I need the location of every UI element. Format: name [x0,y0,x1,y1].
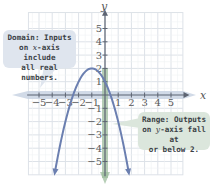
domain-line-1: Domain: Inputs [3,33,76,43]
domain-line-2: on x-axis include [3,43,76,63]
svg-text:−1: −1 [87,103,102,114]
svg-text:5: 5 [168,97,174,108]
svg-text:5: 5 [96,23,102,34]
svg-text:3: 3 [96,50,102,61]
range-line-2-post: -axis fall at [160,125,206,144]
range-callout: Range: Outputs on y-axis fall at or belo… [138,112,210,150]
range-line-3: or below 2. [138,145,210,155]
domain-line-2-pre: on [19,43,33,52]
y-axis-label: y [100,0,108,13]
svg-text:1: 1 [96,76,102,87]
svg-text:4: 4 [155,97,161,108]
range-line-2: on y-axis fall at [138,125,210,145]
range-line-1: Range: Outputs [138,115,210,125]
svg-text:−4: −4 [87,143,102,154]
svg-text:−5: −5 [87,156,102,167]
range-line-2-pre: on [142,125,156,134]
domain-callout: Domain: Inputs on x-axis include all rea… [3,30,76,68]
svg-text:1: 1 [115,97,121,108]
svg-text:3: 3 [141,97,147,108]
range-callout-pointer [112,118,140,128]
domain-line-3: all real numbers. [3,63,76,83]
svg-text:2: 2 [128,97,134,108]
svg-text:−2: −2 [87,116,102,127]
x-axis-label: x [200,89,207,102]
svg-text:4: 4 [96,36,102,47]
svg-text:−3: −3 [87,129,102,140]
